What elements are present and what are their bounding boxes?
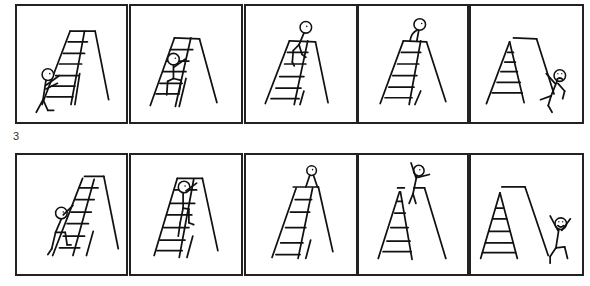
ladder-mid-climb-illustration <box>131 155 241 274</box>
ladder-happy-landing-illustration <box>471 155 582 274</box>
ladder-jump-off-illustration <box>359 155 467 274</box>
ladder-fall-sad-illustration <box>471 6 582 122</box>
ladder-climbing-illustration <box>131 6 241 122</box>
ladder-near-top-illustration <box>246 6 356 122</box>
comic-panel-1 <box>15 4 128 124</box>
ladder-approach-illustration <box>17 6 126 122</box>
ladder-start-climb-illustration <box>17 155 126 274</box>
comic-panel-4 <box>357 4 469 124</box>
comic-panel-2 <box>129 4 243 124</box>
comic-panel-8 <box>244 153 358 276</box>
ladder-sitting-top-illustration <box>246 155 356 274</box>
comic-panel-7 <box>129 153 243 276</box>
comic-panel-3 <box>244 4 358 124</box>
comic-panel-5 <box>469 4 584 124</box>
section-label: 3 <box>13 130 19 142</box>
comic-panel-6 <box>15 153 128 276</box>
ladder-on-top-illustration <box>359 6 467 122</box>
comic-panel-10 <box>469 153 584 276</box>
comic-panel-9 <box>357 153 469 276</box>
